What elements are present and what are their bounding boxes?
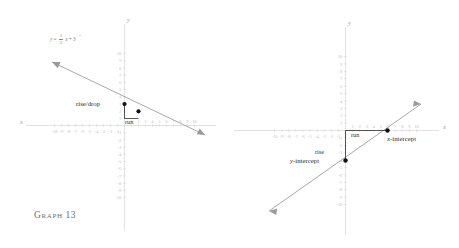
graph-14-x-axis-label: x [442,123,446,130]
graph-13-rise-run-triangle [125,104,139,119]
x-tick-label: -10 [51,129,58,134]
y-tick-label: -8 [338,187,343,192]
x-tick-label: 1 [351,124,354,129]
x-tick-label: -9 [280,134,285,139]
graph-14-y-axis-label: y [347,19,351,26]
equation-numerator: 1 [59,33,64,38]
x-tick-label: -2 [329,134,334,139]
y-tick-label: 1 [119,116,122,121]
graph-14-annotation-x-intercept: x-intercept [387,135,416,142]
x-tick-label: 8 [401,124,404,129]
x-tick-label: -5 [308,134,313,139]
x-tick-label: 10 [414,124,419,129]
equation-fraction: 1 2 [59,33,64,45]
equation-constant: 3 [73,36,76,42]
y-tick-label: 6 [340,84,343,89]
x-tick-label: 4 [373,124,376,129]
graph-14-point-x-intercept [385,128,389,132]
x-tick-label: 10 [192,119,197,124]
graph-14-annotation-rise: rise [315,148,324,155]
graph-13-annotation-rise-drop: rise/drop [76,100,100,107]
y-tick-label: -6 [117,166,122,171]
graph-13-x-axis-label: x [19,118,23,125]
x-tick-label: -2 [109,129,114,134]
x-tick-label: 3 [366,124,369,129]
x-tick-label: -3 [322,134,327,139]
x-tick-label: -4 [315,134,320,139]
graph-13-annotation-run: run [125,118,133,125]
graph-14-point-y-intercept [343,158,347,162]
equation-plus: + [69,36,72,42]
y-tick-label: -6 [338,173,343,178]
x-tick-label: 9 [408,124,411,129]
x-tick-label: -6 [301,134,306,139]
y-tick-label: 3 [119,102,122,107]
y-tick-label: -3 [338,150,343,155]
y-tick-label: 7 [340,76,343,81]
x-tick-label: -6 [81,129,86,134]
x-tick-label: -7 [74,129,79,134]
y-tick-label: 7 [119,73,122,78]
x-tick-label: 6 [165,119,168,124]
y-tick-label: -1 [338,136,343,141]
y-tick-label: 9 [340,62,343,67]
graph-13-panel: -10-9-8-7-6-5-4-3-2-112345678910 1098765… [0,0,229,248]
y-tick-label: -7 [117,174,122,179]
equation-equals: = [53,36,56,42]
x-tick-label: 2 [137,119,140,124]
graph-13-equation: y = 1 2 x + 3 [50,33,76,45]
y-tick-label: 6 [119,80,122,85]
worksheet-page: -10-9-8-7-6-5-4-3-2-112345678910 1098765… [0,0,459,248]
y-tick-label: -8 [117,181,122,186]
x-tick-label: 4 [151,119,154,124]
y-intercept-suffix: -intercept [293,157,319,164]
y-tick-label: 9 [119,58,122,63]
y-tick-label: 3 [340,106,343,111]
y-tick-label: -1 [117,130,122,135]
y-tick-label: -10 [115,195,122,200]
y-tick-label: 4 [340,99,343,104]
y-tick-label: -2 [338,143,343,148]
graph-14-annotation-run: run [351,131,359,138]
x-tick-label: -9 [60,129,65,134]
y-tick-label: 5 [340,91,343,96]
equation-variable: x [65,36,67,42]
x-tick-label: 7 [394,124,397,129]
y-tick-label: -10 [336,202,343,207]
y-tick-label: 10 [338,54,343,59]
x-tick-label: 9 [186,119,189,124]
y-tick-label: -3 [117,145,122,150]
graph-14-panel: -10-9-8-7-6-5-4-3-2-112345678910 1098765… [230,0,459,248]
x-tick-label: -5 [88,129,93,134]
y-tick-label: -5 [117,159,122,164]
x-tick-label: -7 [294,134,299,139]
y-tick-label: -9 [338,195,343,200]
y-tick-label: 2 [119,109,122,114]
graph-13-point-y-intercept [122,102,126,106]
y-tick-label: -9 [117,188,122,193]
x-tick-label: 2 [359,124,362,129]
y-tick-label: -4 [117,152,122,157]
y-tick-label: 8 [119,66,122,71]
y-tick-label: -5 [338,165,343,170]
x-tick-label: 3 [144,119,147,124]
y-tick-label: 5 [119,87,122,92]
graph-13-point-second [136,109,140,113]
x-tick-label: -8 [67,129,72,134]
x-tick-label: -4 [95,129,100,134]
x-tick-label: -8 [287,134,292,139]
x-tick-label: -10 [271,134,278,139]
graph-14-plot: -10-9-8-7-6-5-4-3-2-112345678910 1098765… [230,0,459,248]
graph-14-annotation-y-intercept: y-intercept [290,157,319,164]
x-tick-label: 5 [158,119,161,124]
y-tick-label: -2 [117,138,122,143]
x-tick-label: 5 [380,124,383,129]
y-tick-label: 1 [340,121,343,126]
y-tick-label: 2 [340,113,343,118]
x-tick-label: -3 [102,129,107,134]
y-tick-label: 10 [117,51,122,56]
equation-lhs: y [50,36,52,42]
y-tick-label: -7 [338,180,343,185]
equation-denominator: 2 [59,40,64,45]
graph-13-y-axis-label: y [126,16,130,23]
